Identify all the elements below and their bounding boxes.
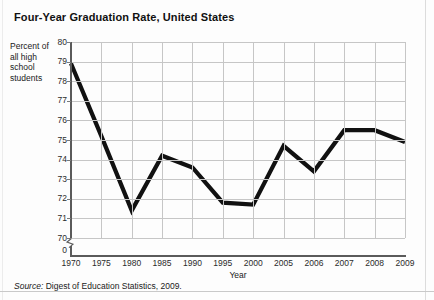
y-tick-mark (67, 179, 71, 180)
x-axis-line (70, 255, 406, 257)
y-tick-label: 72 (48, 193, 67, 203)
y-tick-mark (67, 120, 71, 121)
gridline-horizontal (71, 42, 405, 43)
gridline-vertical (344, 42, 345, 238)
y-tick-mark (67, 101, 71, 102)
gridline-vertical (132, 42, 133, 238)
x-tick-label: 1990 (183, 258, 202, 268)
y-tick-label: 79 (48, 56, 67, 66)
y-tick-label: 0 (48, 245, 67, 255)
gridline-horizontal (71, 120, 405, 121)
x-tick-label: 2007 (335, 258, 354, 268)
y-tick-mark (67, 160, 71, 161)
gridline-horizontal (71, 218, 405, 219)
x-tick-label: 1995 (213, 258, 232, 268)
x-axis-label: Year (71, 270, 405, 280)
y-tick-mark (67, 62, 71, 63)
chart-figure: Four-Year Graduation Rate, United States… (0, 0, 434, 300)
y-tick-label: 76 (48, 115, 67, 125)
x-tick-label: 2005 (274, 258, 293, 268)
gridline-vertical (101, 42, 102, 238)
x-tick-label: 1985 (153, 258, 172, 268)
gridline-horizontal (71, 160, 405, 161)
y-tick-label: 80 (48, 37, 67, 47)
y-tick-label: 71 (48, 213, 67, 223)
y-tick-mark (67, 238, 71, 239)
x-tick-label: 1980 (122, 258, 141, 268)
source-note: Source: Digest of Education Statistics, … (14, 281, 182, 291)
y-tick-mark (67, 42, 71, 43)
y-tick-label: 77 (48, 95, 67, 105)
x-tick-label: 1970 (62, 258, 81, 268)
gridline-horizontal (71, 140, 405, 141)
gridline-horizontal (71, 62, 405, 63)
gridline-vertical (314, 42, 315, 238)
x-tick-label: 1975 (92, 258, 111, 268)
y-tick-mark (67, 199, 71, 200)
plot-area (71, 42, 405, 238)
gridline-horizontal (71, 199, 405, 200)
gridline-vertical (405, 42, 406, 238)
gridline-vertical (192, 42, 193, 238)
y-tick-label: 73 (48, 174, 67, 184)
y-tick-label: 74 (48, 154, 67, 164)
gridline-horizontal (71, 179, 405, 180)
x-tick-label: 2009 (396, 258, 415, 268)
x-tick-label: 2008 (365, 258, 384, 268)
gridline-horizontal (71, 81, 405, 82)
gridline-vertical (223, 42, 224, 238)
gridline-vertical (253, 42, 254, 238)
gridline-vertical (375, 42, 376, 238)
source-keyword: Source: (14, 281, 43, 291)
y-tick-mark (67, 140, 71, 141)
y-tick-mark (67, 81, 71, 82)
y-tick-label: 78 (48, 76, 67, 86)
gridline-horizontal (71, 101, 405, 102)
y-axis-ticks: 80797877767574737271700 (48, 0, 67, 300)
gridline-vertical (284, 42, 285, 238)
y-tick-label: 75 (48, 135, 67, 145)
x-tick-label: 2006 (304, 258, 323, 268)
gridline-horizontal (71, 238, 405, 239)
y-tick-label: 70 (48, 233, 67, 243)
x-tick-label: 2000 (244, 258, 263, 268)
source-text: Digest of Education Statistics, 2009. (43, 281, 181, 291)
y-tick-mark (67, 218, 71, 219)
figure-border-left (2, 0, 3, 300)
figure-border-right (425, 0, 426, 300)
gridline-vertical (162, 42, 163, 238)
graduation-rate-line (71, 64, 405, 211)
